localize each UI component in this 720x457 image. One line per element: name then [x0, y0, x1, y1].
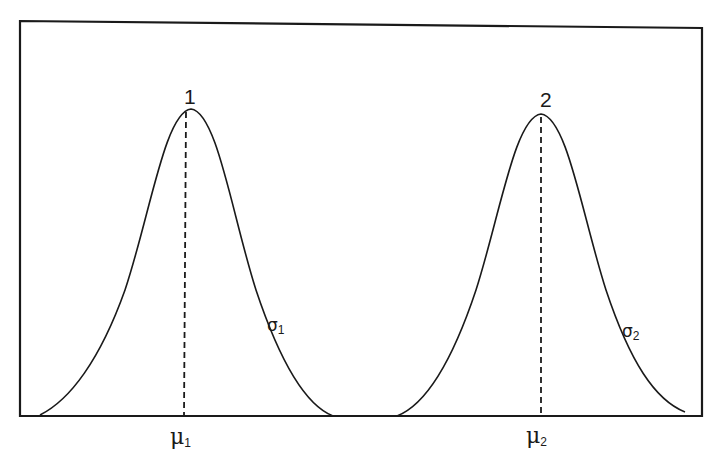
plot-frame: [20, 21, 702, 416]
sigma-label-1: σ1: [267, 315, 285, 337]
mean-label-1: μ1: [170, 424, 191, 450]
peak-label-2: 2: [540, 88, 552, 111]
mean-line-1: [184, 112, 186, 416]
sigma-label-2: σ2: [622, 321, 640, 343]
normal-distributions-diagram: 1 2 σ1 σ2 μ1 μ2: [0, 0, 720, 457]
mean-label-2: μ2: [526, 423, 547, 449]
peak-label-1: 1: [184, 85, 196, 108]
